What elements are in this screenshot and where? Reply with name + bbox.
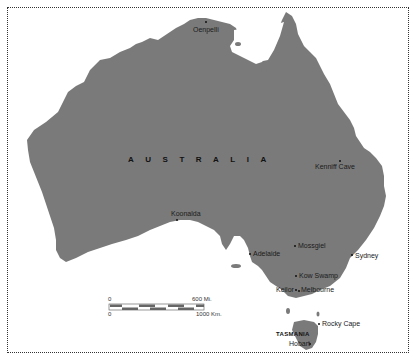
island — [317, 312, 320, 317]
country-label: AUSTRALIA — [128, 155, 278, 164]
scale-km-max: 1000 Km. — [196, 311, 222, 317]
site-label-oenpelli: Oenpelli — [193, 26, 219, 34]
site-marker-rocky-cape — [318, 323, 320, 325]
site-marker-kenniff-cave — [339, 160, 341, 162]
scale-miles-zero: 0 — [108, 296, 111, 302]
scale-miles-max: 600 Mi. — [192, 296, 212, 302]
site-marker-melbourne — [298, 290, 300, 292]
site-marker-oenpelli — [205, 21, 207, 23]
site-label-kow-swamp: Kow Swamp — [299, 272, 338, 280]
site-label-adelaide: Adelaide — [253, 250, 280, 258]
state-label-tasmania: TASMANIA — [276, 331, 310, 337]
site-marker-mossgiel — [294, 245, 296, 247]
site-marker-sydney — [351, 254, 353, 256]
site-label-hobart: Hobart — [289, 340, 310, 348]
scale-km-zero: 0 — [108, 311, 111, 317]
site-marker-adelaide — [249, 253, 251, 255]
site-label-koonalda: Koonalda — [171, 210, 201, 218]
scale-bar — [109, 304, 204, 310]
site-label-keilor: Keilor — [276, 286, 294, 294]
kangaroo-island — [231, 264, 241, 268]
site-marker-hobart — [309, 343, 311, 345]
site-label-melbourne: Melbourne — [301, 286, 334, 294]
island — [286, 308, 290, 314]
site-marker-kow-swamp — [295, 275, 297, 277]
site-label-sydney: Sydney — [355, 252, 378, 260]
australia-map — [0, 0, 416, 361]
site-marker-keilor — [295, 289, 297, 291]
island — [261, 69, 267, 72]
site-label-mossgiel: Mossgiel — [298, 242, 326, 250]
island — [235, 42, 241, 46]
site-marker-koonalda — [176, 219, 178, 221]
site-label-kenniff-cave: Kenniff Cave — [315, 163, 355, 171]
site-label-rocky-cape: Rocky Cape — [322, 320, 360, 328]
